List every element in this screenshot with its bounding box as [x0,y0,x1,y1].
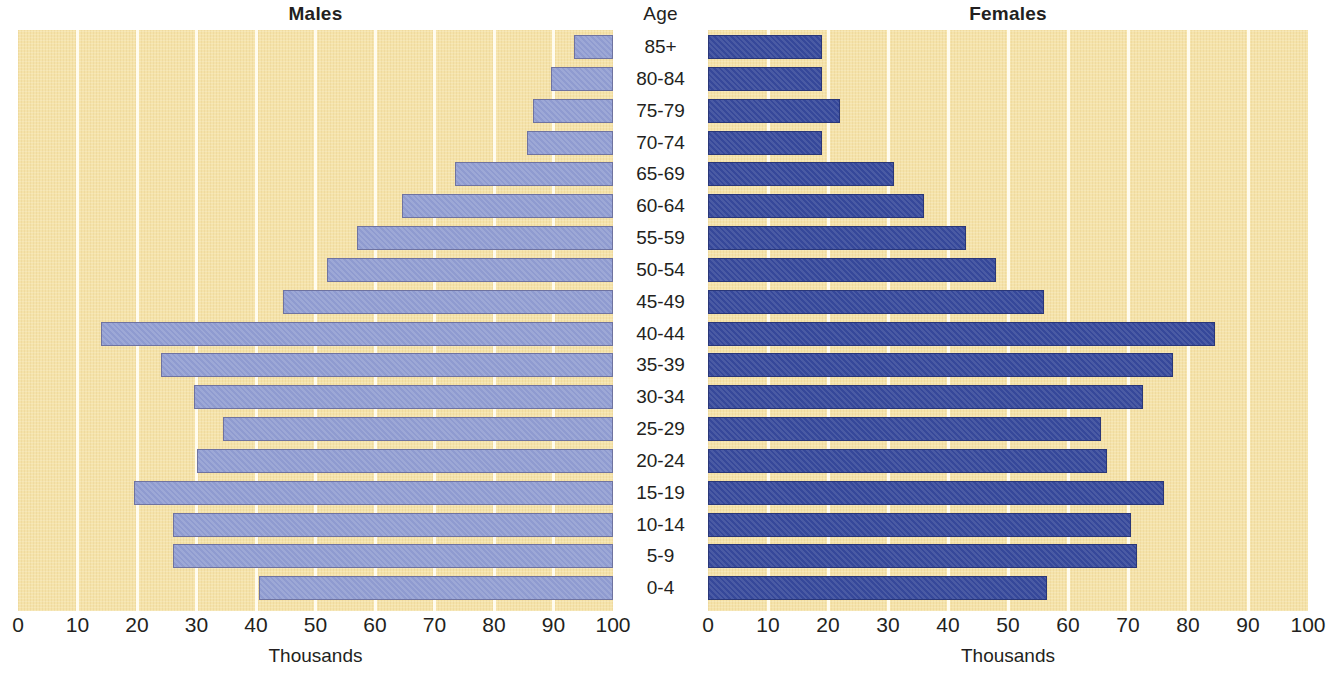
bar-females-5-9[interactable] [708,544,1137,568]
age-label-75-79: 75-79 [613,99,708,123]
females-plot-area [708,30,1308,611]
bar-males-15-19[interactable] [134,481,613,505]
bar-row [18,258,613,282]
age-label-15-19: 15-19 [613,481,708,505]
bar-row [18,162,613,186]
bar-females-20-24[interactable] [708,449,1107,473]
bar-males-80-84[interactable] [551,67,613,91]
bar-row [18,99,613,123]
bar-females-45-49[interactable] [708,290,1044,314]
bar-row [18,481,613,505]
bar-females-15-19[interactable] [708,481,1164,505]
males-title: Males [18,3,613,25]
bar-males-85+[interactable] [574,35,613,59]
bar-males-30-34[interactable] [194,385,613,409]
bar-females-75-79[interactable] [708,99,840,123]
bar-row [708,544,1308,568]
bar-row [708,35,1308,59]
age-label-5-9: 5-9 [613,544,708,568]
bar-row [18,194,613,218]
bar-males-10-14[interactable] [173,513,613,537]
age-label-80-84: 80-84 [613,67,708,91]
bar-females-25-29[interactable] [708,417,1101,441]
bar-males-65-69[interactable] [455,162,613,186]
xtick-right-0: 0 [678,613,738,637]
age-label-20-24: 20-24 [613,449,708,473]
bar-females-85+[interactable] [708,35,822,59]
bar-row [708,417,1308,441]
bar-females-40-44[interactable] [708,322,1215,346]
xtick-right-60: 60 [1038,613,1098,637]
bar-row [708,226,1308,250]
bar-row [708,322,1308,346]
xtick-left-60: 60 [345,613,405,637]
bar-males-5-9[interactable] [173,544,613,568]
bar-males-50-54[interactable] [327,258,613,282]
bar-males-25-29[interactable] [223,417,613,441]
age-label-55-59: 55-59 [613,226,708,250]
bar-females-60-64[interactable] [708,194,924,218]
xtick-left-20: 20 [107,613,167,637]
bar-females-0-4[interactable] [708,576,1047,600]
bar-row [18,544,613,568]
xtick-left-0: 0 [0,613,48,637]
bar-row [18,449,613,473]
bar-row [18,576,613,600]
bar-males-35-39[interactable] [161,353,613,377]
xtick-left-40: 40 [226,613,286,637]
bar-males-0-4[interactable] [259,576,613,600]
xtick-right-10: 10 [738,613,798,637]
bar-females-70-74[interactable] [708,131,822,155]
age-label-50-54: 50-54 [613,258,708,282]
bar-males-60-64[interactable] [402,194,613,218]
xtick-left-30: 30 [167,613,227,637]
xtick-left-80: 80 [464,613,524,637]
bar-row [18,385,613,409]
age-label-25-29: 25-29 [613,417,708,441]
xtick-right-90: 90 [1218,613,1278,637]
xtick-right-50: 50 [978,613,1038,637]
bar-row [18,35,613,59]
bar-row [18,417,613,441]
age-label-85+: 85+ [613,35,708,59]
bar-row [708,131,1308,155]
males-axis-caption: Thousands [18,645,613,667]
females-title: Females [708,3,1308,25]
bar-males-20-24[interactable] [197,449,614,473]
bar-row [18,353,613,377]
bar-row [708,290,1308,314]
bar-males-40-44[interactable] [101,322,613,346]
bar-row [708,258,1308,282]
bar-row [18,513,613,537]
females-axis-caption: Thousands [708,645,1308,667]
bar-females-65-69[interactable] [708,162,894,186]
bar-females-35-39[interactable] [708,353,1173,377]
bar-row [708,576,1308,600]
bar-males-45-49[interactable] [283,290,613,314]
bar-females-80-84[interactable] [708,67,822,91]
age-label-40-44: 40-44 [613,322,708,346]
bar-row [18,322,613,346]
xtick-left-100: 100 [583,613,643,637]
age-label-45-49: 45-49 [613,290,708,314]
xtick-right-40: 40 [918,613,978,637]
bar-row [708,481,1308,505]
bar-row [708,353,1308,377]
bar-females-50-54[interactable] [708,258,996,282]
bar-row [18,67,613,91]
age-label-10-14: 10-14 [613,513,708,537]
bar-males-70-74[interactable] [527,131,613,155]
bar-males-55-59[interactable] [357,226,613,250]
xtick-right-70: 70 [1098,613,1158,637]
xtick-left-10: 10 [48,613,108,637]
bar-row [18,131,613,155]
age-label-70-74: 70-74 [613,131,708,155]
age-column-title: Age [613,3,708,25]
males-plot-area [18,30,613,611]
bar-females-10-14[interactable] [708,513,1131,537]
xtick-left-50: 50 [286,613,346,637]
bar-females-30-34[interactable] [708,385,1143,409]
bar-females-55-59[interactable] [708,226,966,250]
age-label-0-4: 0-4 [613,576,708,600]
bar-males-75-79[interactable] [533,99,613,123]
